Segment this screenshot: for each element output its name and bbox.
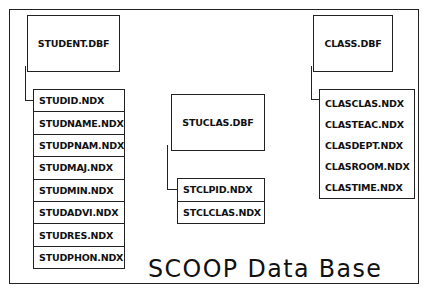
index-item: STUDID.NDX xyxy=(34,90,124,112)
table-box-class: CLASS.DBF xyxy=(313,15,393,72)
table-name-class: CLASS.DBF xyxy=(324,38,381,49)
index-list-class: CLASCLAS.NDX CLASTEAC.NDX CLASDEPT.NDX C… xyxy=(319,89,415,199)
table-name-stuclas: STUCLAS.DBF xyxy=(182,117,253,128)
index-item: STUDADVI.NDX xyxy=(34,202,124,224)
index-item: CLASDEPT.NDX xyxy=(320,135,414,156)
index-item: STUDMIN.NDX xyxy=(34,180,124,202)
diagram-title: SCOOP Data Base xyxy=(148,254,382,283)
index-item: CLASROOM.NDX xyxy=(320,156,414,177)
index-item: CLASTEAC.NDX xyxy=(320,114,414,135)
index-item: CLASTIME.NDX xyxy=(320,177,414,198)
index-item: STUDRES.NDX xyxy=(34,224,124,246)
index-list-stuclas: STCLPID.NDX STCLCLAS.NDX xyxy=(177,178,265,224)
index-item: STUDPNAM.NDX xyxy=(34,135,124,157)
index-item: CLASCLAS.NDX xyxy=(320,93,414,114)
table-box-student: STUDENT.DBF xyxy=(27,15,120,72)
index-item: STUDMAJ.NDX xyxy=(34,157,124,179)
index-list-student: STUDID.NDX STUDNAME.NDX STUDPNAM.NDX STU… xyxy=(33,89,125,269)
index-item: STCLCLAS.NDX xyxy=(178,202,264,225)
table-box-stuclas: STUCLAS.DBF xyxy=(171,94,265,151)
index-item: STUDNAME.NDX xyxy=(34,112,124,134)
index-item: STCLPID.NDX xyxy=(178,179,264,202)
table-name-student: STUDENT.DBF xyxy=(38,38,109,49)
index-item: STUDPHON.NDX xyxy=(34,247,124,269)
